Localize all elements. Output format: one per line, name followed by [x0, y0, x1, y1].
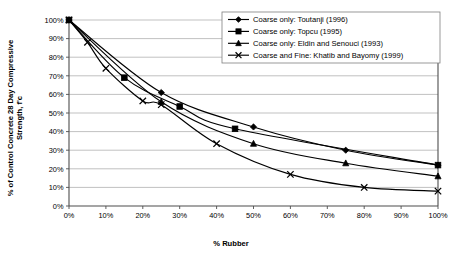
- y-tick-label-30: 30%: [49, 146, 64, 155]
- x-tick-label-60: 60%: [283, 211, 298, 220]
- x-tick-label-100: 100%: [429, 211, 448, 220]
- x-tick-label-0: 0%: [64, 211, 75, 220]
- y-tick-label-60: 60%: [49, 90, 64, 99]
- legend-label-3: Coarse and Fine: Khatib and Bayomy (1999…: [253, 51, 404, 60]
- y-tick-label-70: 70%: [49, 72, 64, 81]
- series-1-point-2-square-marker: [177, 104, 183, 110]
- y-tick-label-20: 20%: [49, 165, 64, 174]
- legend-label-0: Coarse only: Toutanji (1996): [253, 15, 348, 24]
- x-tick-label-50: 50%: [246, 211, 261, 220]
- series-1-point-4-square-marker: [435, 162, 441, 168]
- series-1-point-1-square-marker: [122, 75, 128, 81]
- x-axis-title: % Rubber: [213, 239, 248, 248]
- legend-label-1: Coarse only: Topcu (1995): [253, 27, 342, 36]
- y-tick-label-80: 80%: [49, 53, 64, 62]
- chart-legend[interactable]: Coarse only: Toutanji (1996)Coarse only:…: [222, 12, 440, 63]
- legend-entry-3[interactable]: Coarse and Fine: Khatib and Bayomy (1999…: [228, 51, 404, 60]
- y-axis-title-line2: Strength, f'c: [15, 96, 24, 140]
- y-tick-label-10: 10%: [49, 183, 64, 192]
- legend-1-square-marker: [236, 29, 241, 34]
- y-tick-label-40: 40%: [49, 127, 64, 136]
- y-tick-label-100: 100%: [45, 16, 64, 25]
- legend-label-2: Coarse only: Eldin and Senouci (1993): [253, 39, 383, 48]
- series-1-point-3-square-marker: [232, 126, 238, 132]
- x-tick-label-80: 80%: [357, 211, 372, 220]
- y-axis-title-line1: % of Control Concrete 28 Day Compressive: [6, 40, 15, 197]
- y-tick-label-50: 50%: [49, 109, 64, 118]
- x-tick-label-30: 30%: [172, 211, 187, 220]
- x-tick-label-10: 10%: [99, 211, 114, 220]
- x-tick-label-70: 70%: [320, 211, 335, 220]
- chart-container: 0%10%20%30%40%50%60%70%80%90%100% 0%10%2…: [0, 0, 462, 254]
- compressive-strength-vs-rubber-chart: 0%10%20%30%40%50%60%70%80%90%100% 0%10%2…: [0, 0, 462, 254]
- y-tick-label-0: 0%: [53, 202, 64, 211]
- x-tick-label-40: 40%: [209, 211, 224, 220]
- y-tick-label-90: 90%: [49, 34, 64, 43]
- x-tick-label-20: 20%: [135, 211, 150, 220]
- x-tick-label-90: 90%: [394, 211, 409, 220]
